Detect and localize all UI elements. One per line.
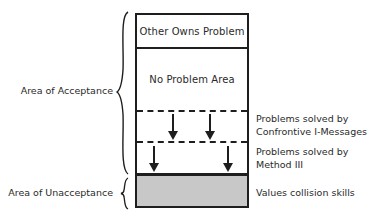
region-label-other-owns: Other Owns Problem [137,26,247,37]
label-confrontive-line2: Confrontive I-Messages [256,125,367,138]
divider-no-problem-dashed [137,110,247,112]
divider-acceptance-line [135,173,249,176]
left-curly-brace-icon [114,10,130,176]
label-confrontive-line1: Problems solved by [256,112,348,125]
behavior-window-diagram: Other Owns Problem No Problem Area Area … [0,0,375,221]
down-arrow-icon [205,114,215,140]
down-arrow-icon [149,146,159,172]
left-curly-brace-icon [118,177,130,210]
label-area-of-acceptance: Area of Acceptance [21,84,113,97]
label-values-collision: Values collision skills [256,186,355,199]
divider-confrontive-dashed [137,141,247,143]
divider-other-owns [135,47,249,49]
label-method-line1: Problems solved by [256,145,348,158]
down-arrow-icon [168,114,178,140]
label-method-line2: Method III [256,158,303,171]
label-area-of-unacceptance: Area of Unacceptance [8,186,113,199]
unacceptance-region [137,176,247,206]
down-arrow-icon [223,146,233,172]
region-label-no-problem: No Problem Area [137,74,247,85]
